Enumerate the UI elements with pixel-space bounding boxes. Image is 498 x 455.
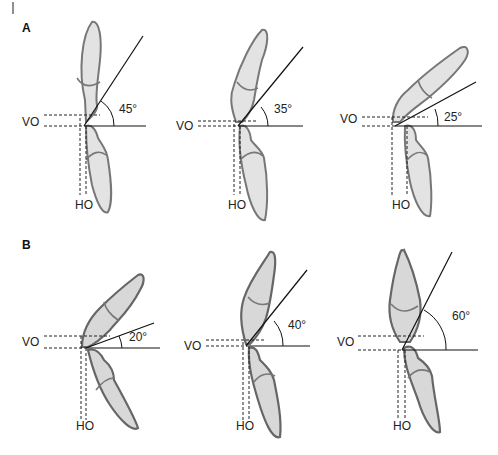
vo-label: VO <box>340 112 357 126</box>
diagram-b2: VO HO 40° <box>184 252 310 438</box>
diagram-a1: VO HO 45° <box>22 22 146 213</box>
ho-label: HO <box>76 419 94 433</box>
upper-incisor <box>81 22 100 122</box>
angle-label: 60° <box>452 309 470 323</box>
ho-label: HO <box>392 198 410 212</box>
lower-incisor <box>88 349 138 428</box>
panel-label-b: B <box>22 238 31 252</box>
panel-label-a: A <box>22 21 31 35</box>
ho-label: HO <box>236 419 254 433</box>
ho-label: HO <box>75 198 93 212</box>
upper-incisor <box>389 250 420 342</box>
angle-label: 35° <box>274 102 292 116</box>
ho-label: HO <box>393 419 411 433</box>
vo-label: VO <box>22 115 39 129</box>
angle-label: 40° <box>288 318 306 332</box>
ho-label: HO <box>228 198 246 212</box>
diagram-a2: VO HO 35° <box>176 30 303 220</box>
vo-label: VO <box>184 339 201 353</box>
angle-label: 20° <box>129 330 147 344</box>
angle-label: 25° <box>444 110 462 124</box>
diagram-a3: VO HO 25° <box>340 47 482 216</box>
vo-label: VO <box>22 335 39 349</box>
angle-label: 45° <box>119 102 137 116</box>
incisor-angle-diagram: A VO HO 45° VO HO 35° <box>0 0 498 455</box>
diagram-b1: VO HO 20° <box>22 274 160 433</box>
diagram-b3: VO HO 60° <box>337 250 478 433</box>
vo-label: VO <box>337 335 354 349</box>
vo-label: VO <box>176 119 193 133</box>
